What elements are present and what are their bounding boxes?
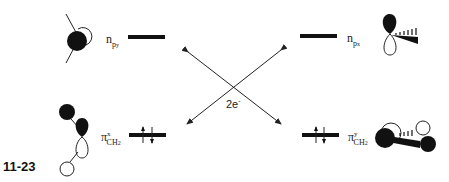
level-bar-npx — [300, 34, 337, 38]
orbital-pi-x-icon — [59, 104, 88, 176]
label-npx: npx — [347, 32, 360, 48]
level-bar-npy — [128, 35, 165, 39]
label-npx-subsub: x — [357, 41, 360, 47]
orbital-pi-y-icon — [375, 121, 436, 152]
orbital-correlation-diagram — [0, 0, 449, 182]
orbital-npx-icon — [383, 14, 418, 55]
orbital-npy-icon — [66, 14, 92, 63]
label-npy: npy — [106, 33, 119, 49]
electron-transfer-label: 2e- — [226, 97, 241, 110]
electron-count: 2e — [226, 98, 238, 110]
label-pi-y-subsub: 2 — [365, 140, 368, 146]
level-bar-pi-x — [129, 126, 166, 144]
crossing-arrows — [187, 50, 281, 124]
label-pi-y-sub: CH — [354, 138, 365, 147]
label-pi-x-sub: CH — [107, 138, 118, 147]
label-pi-y: πyCH2 — [348, 131, 368, 147]
label-pi-x-sup: x — [107, 130, 111, 138]
level-bar-pi-y — [302, 126, 339, 144]
electron-charge: - — [238, 97, 240, 104]
label-pi-x-subsub: 2 — [118, 140, 121, 146]
label-pi-x: πxCH2 — [101, 131, 121, 147]
label-npy-subsub: y — [116, 42, 119, 48]
label-pi-y-sup: y — [354, 130, 358, 138]
figure-number: 11-23 — [3, 159, 36, 174]
